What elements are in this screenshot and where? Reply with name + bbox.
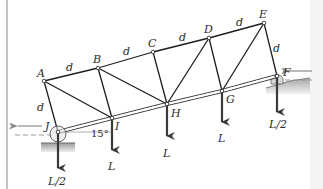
joint-J xyxy=(56,130,60,134)
truss-members xyxy=(44,23,277,132)
member-DG xyxy=(209,38,222,91)
joint-label-G: G xyxy=(226,93,235,106)
joint-H xyxy=(165,102,169,106)
joint-labels: A B C D E F G H I J xyxy=(36,8,291,133)
member-BH xyxy=(98,68,167,104)
truss-diagram: A B C D E F G H I J d d d d d d 15° L/2 … xyxy=(0,0,323,189)
member-HG-fill xyxy=(167,91,222,104)
joint-label-B: B xyxy=(92,53,101,66)
dimension-label-AJ: d xyxy=(37,101,44,114)
angle-label-15deg: 15° xyxy=(91,128,109,139)
member-CH xyxy=(153,52,167,104)
load-label-J: L/2 xyxy=(47,175,66,188)
joint-E xyxy=(262,21,266,25)
dimension-label-EF: d xyxy=(273,42,280,55)
joint-G xyxy=(220,89,224,93)
joint-label-C: C xyxy=(148,37,157,50)
joint-F xyxy=(275,74,279,78)
member-IH-upper xyxy=(112,106,167,120)
member-HG-upper xyxy=(167,93,222,106)
frame-shade-right xyxy=(310,0,323,189)
dimension-label-CD: d xyxy=(179,31,186,44)
joint-D xyxy=(207,36,211,40)
load-label-H: L xyxy=(162,147,170,160)
member-BI xyxy=(98,68,112,118)
dimension-label-AB: d xyxy=(66,61,73,74)
load-label-F: L/2 xyxy=(268,118,287,131)
dimension-label-BC: d xyxy=(123,45,130,58)
member-IH-fill xyxy=(112,104,167,118)
joint-label-F: F xyxy=(282,66,291,79)
member-IH-lower xyxy=(112,102,167,116)
member-AI xyxy=(44,81,112,118)
joint-label-J: J xyxy=(43,120,50,133)
joint-C xyxy=(151,50,155,54)
load-label-G: L xyxy=(217,132,225,145)
joint-label-D: D xyxy=(203,23,213,36)
joint-B xyxy=(96,66,100,70)
joint-label-E: E xyxy=(258,8,267,21)
dimension-label-DE: d xyxy=(236,16,243,29)
joint-label-I: I xyxy=(114,120,120,133)
joint-I xyxy=(110,116,114,120)
load-label-I: L xyxy=(107,160,115,173)
joint-label-H: H xyxy=(170,107,181,120)
joint-label-A: A xyxy=(36,67,45,80)
